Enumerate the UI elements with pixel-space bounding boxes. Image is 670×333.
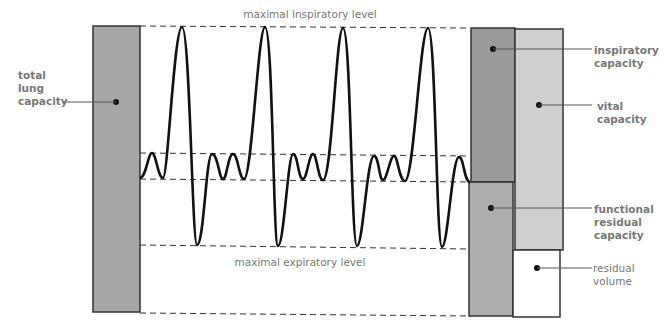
tidal-top-line bbox=[140, 153, 470, 156]
max-inspiratory-label: maximal inspiratory level bbox=[200, 8, 420, 21]
bottom-line bbox=[140, 313, 470, 316]
max-expiratory-line bbox=[140, 245, 470, 249]
functional-residual-capacity-bar bbox=[469, 182, 513, 316]
breathing-waveform bbox=[140, 27, 470, 247]
residual-volume-bar bbox=[513, 250, 560, 317]
tidal-bottom-line bbox=[140, 179, 470, 182]
total-lung-capacity-label: total lung capacity bbox=[18, 69, 68, 108]
vital-capacity-bar bbox=[515, 29, 563, 250]
spirogram-diagram bbox=[0, 0, 670, 333]
vital-capacity-label: vital capacity bbox=[597, 100, 647, 126]
max-expiratory-label: maximal expiratory level bbox=[190, 256, 410, 269]
total-lung-capacity-bar bbox=[93, 26, 140, 312]
residual-volume-label: residual volume bbox=[593, 262, 635, 288]
max-inspiratory-line bbox=[140, 26, 470, 28]
functional-residual-capacity-label: functional residual capacity bbox=[594, 203, 654, 242]
inspiratory-capacity-label: inspiratory capacity bbox=[594, 44, 659, 70]
